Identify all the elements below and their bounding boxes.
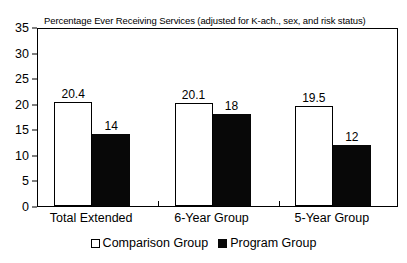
legend-label-comparison-group: Comparison Group [103, 236, 209, 250]
bar-value-label: 14 [91, 120, 131, 133]
y-axis-tick-label: 5 [22, 175, 29, 188]
bar-value-label: 19.5 [294, 92, 334, 105]
bar-program-group[interactable] [333, 145, 371, 206]
bar-program-group[interactable] [213, 114, 251, 206]
y-axis: 05101520253035 [0, 28, 37, 207]
plot-inner: 20.41420.11819.512 [38, 29, 397, 206]
bar-value-label: 18 [212, 100, 252, 113]
bar-comparison-group[interactable] [54, 102, 92, 206]
x-axis-category-label: Total Extended [50, 211, 133, 226]
y-axis-tick-label: 25 [15, 73, 29, 86]
x-axis-group-separator [158, 201, 159, 206]
y-axis-tick-mark [32, 207, 37, 208]
y-axis-tick-mark [32, 79, 37, 80]
y-axis-tick-mark [32, 130, 37, 131]
plot-area: 20.41420.11819.512 [37, 28, 398, 207]
y-axis-tick-mark [32, 155, 37, 156]
legend-item-comparison-group: Comparison Group [91, 236, 209, 250]
x-axis-category-label: 6-Year Group [174, 211, 249, 226]
y-axis-tick-mark [32, 28, 37, 29]
legend-label-program-group: Program Group [230, 236, 316, 250]
bar-value-label: 12 [332, 131, 372, 144]
y-axis-tick-mark [32, 104, 37, 105]
x-axis-category-label: 5-Year Group [295, 211, 370, 226]
hollow-square-swatch-icon [91, 239, 100, 248]
y-axis-tick-mark [32, 181, 37, 182]
bar-value-label: 20.1 [174, 89, 214, 102]
y-axis-tick-mark [32, 53, 37, 54]
chart-legend: Comparison Group Program Group [0, 236, 407, 250]
y-axis-tick-label: 35 [15, 22, 29, 35]
x-axis-group-separator [279, 201, 280, 206]
chart-title: Percentage Ever Receiving Services (adju… [44, 15, 366, 26]
y-axis-tick-label: 30 [15, 47, 29, 60]
y-axis-tick-label: 10 [15, 149, 29, 162]
bar-program-group[interactable] [92, 134, 130, 206]
x-axis-labels: Total Extended6-Year Group5-Year Group [37, 211, 398, 229]
bar-comparison-group[interactable] [175, 103, 213, 206]
bar-comparison-group[interactable] [295, 106, 333, 206]
bar-chart-figure: Percentage Ever Receiving Services (adju… [0, 0, 407, 263]
y-axis-tick-label: 0 [22, 201, 29, 214]
filled-square-swatch-icon [218, 239, 227, 248]
legend-item-program-group: Program Group [218, 236, 316, 250]
y-axis-tick-label: 20 [15, 98, 29, 111]
bar-value-label: 20.4 [53, 88, 93, 101]
y-axis-tick-label: 15 [15, 124, 29, 137]
